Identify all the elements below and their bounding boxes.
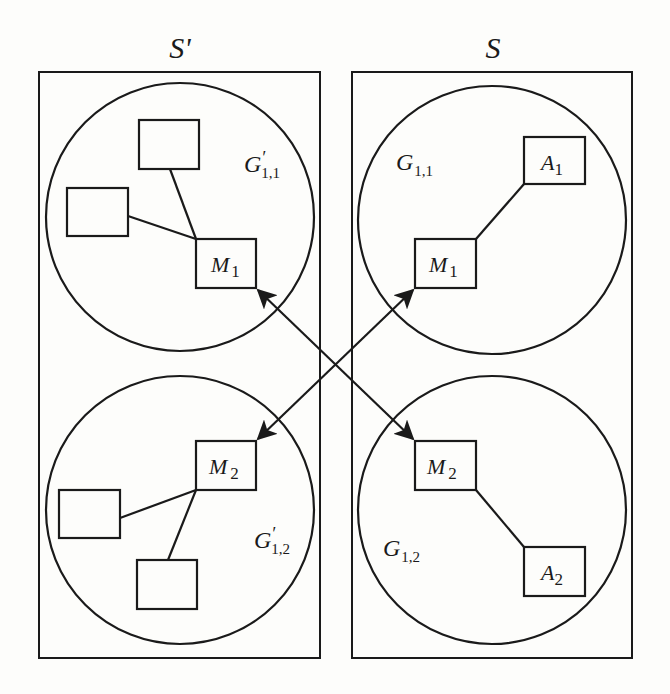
group-g-prime-1-1: G′1,1 M1 [46,83,314,351]
node-m2-left-label: M2 [208,454,239,483]
node-m2-right-label: M2 [426,454,457,483]
edge-m1-to-box2 [128,216,196,239]
group-g-1-1: G1,1 A1 M1 [358,86,626,354]
node-a2-label: A2 [539,560,563,589]
node-a1-label: A1 [539,150,563,179]
edge-m1-to-box1 [170,169,196,239]
system-s: S G1,1 A1 M1 G1,2 [352,31,632,658]
node-m1-left-label: M1 [210,252,240,281]
edge-m2-to-a2 [476,490,524,547]
system-s-prime-title: S' [169,31,191,64]
system-s-prime-frame [39,72,320,658]
system-s-frame [352,72,632,658]
group-g-prime-1-1-label: G′1,1 [244,148,280,181]
group-g-1-2-label: G1,2 [383,535,420,565]
node-unlabeled-2 [67,188,128,236]
edge-m2-to-box4 [168,490,196,560]
node-unlabeled-1 [139,120,199,169]
group-g-prime-1-2-boundary [46,376,314,644]
group-g-1-2: G1,2 M2 A2 [358,376,626,644]
group-g-prime-1-1-boundary [46,83,314,351]
group-g-1-1-label: G1,1 [396,149,433,179]
node-m2-right [415,441,476,490]
group-g-prime-1-2: G′1,2 M2 [46,376,314,644]
edge-m2-to-box3 [120,490,196,518]
node-unlabeled-3 [59,490,120,538]
system-mapping-diagram: S' G′1,1 M1 G′1,2 [0,0,670,694]
node-m1-right-label: M1 [428,252,458,281]
group-g-prime-1-2-label: G′1,2 [254,524,290,557]
node-unlabeled-4 [137,560,197,609]
system-s-prime: S' G′1,1 M1 G′1,2 [39,31,320,658]
edge-m1-to-a1 [476,184,524,239]
system-s-title: S [486,31,501,64]
